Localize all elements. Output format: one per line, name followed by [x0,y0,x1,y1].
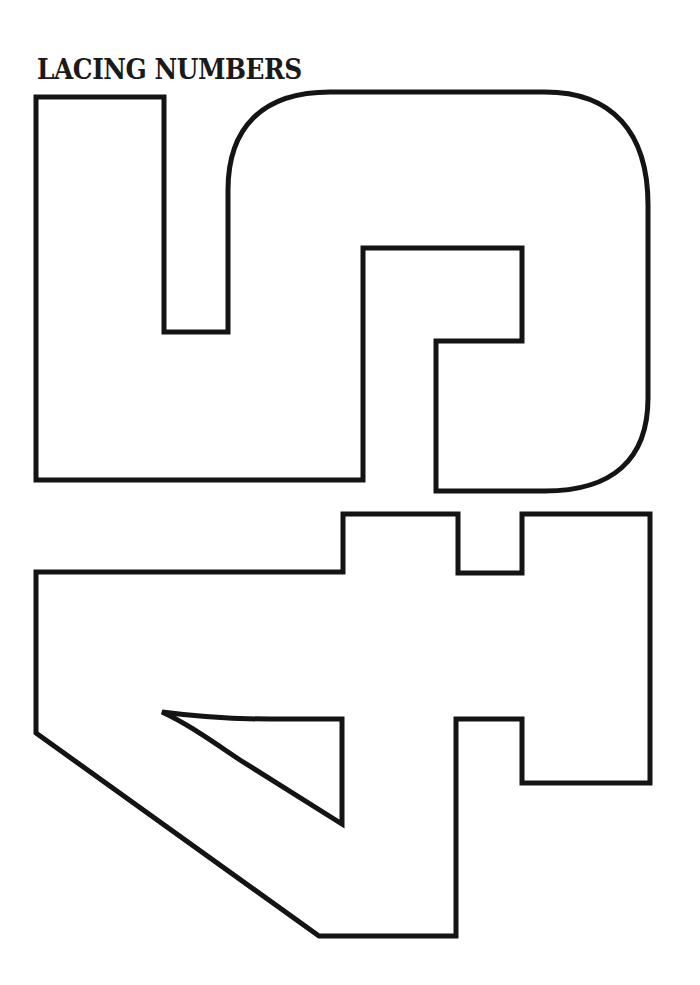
number-5-outline [36,92,648,491]
lacing-artwork [0,0,700,985]
number-4-outline [36,514,650,936]
